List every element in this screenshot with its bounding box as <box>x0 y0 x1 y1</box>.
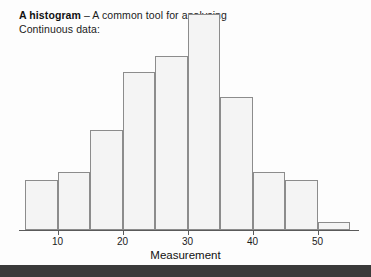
bottom-band <box>0 265 371 277</box>
histogram-bar <box>220 97 253 230</box>
x-axis-tick-label: 40 <box>233 236 273 247</box>
histogram-bar <box>90 130 123 230</box>
x-axis-tick <box>58 230 59 235</box>
histogram-bar <box>58 172 91 230</box>
x-axis-line <box>19 230 359 231</box>
x-axis-tick <box>123 230 124 235</box>
x-axis-tick <box>318 230 319 235</box>
histogram-bar <box>285 180 318 230</box>
x-axis-tick <box>188 230 189 235</box>
x-axis-tick-label: 20 <box>103 236 143 247</box>
histogram-plot: 1020304050 Measurement <box>0 0 371 240</box>
histogram-bar <box>155 56 188 230</box>
histogram-bar <box>188 14 221 230</box>
x-axis-title: Measurement <box>0 249 371 261</box>
histogram-bar <box>123 72 156 230</box>
x-axis-tick-label: 30 <box>168 236 208 247</box>
x-axis-tick <box>253 230 254 235</box>
x-axis-tick-label: 50 <box>298 236 338 247</box>
histogram-bar <box>318 222 351 230</box>
slide-canvas: A histogram – A common tool for analysin… <box>0 0 371 277</box>
histogram-bar <box>253 172 286 230</box>
histogram-bar <box>25 180 58 230</box>
x-axis-tick-label: 10 <box>38 236 78 247</box>
